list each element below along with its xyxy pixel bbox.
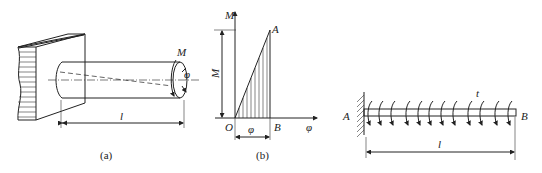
shaft-beam xyxy=(364,109,516,116)
x-axis-label: φ xyxy=(306,121,312,133)
caption-b: (b) xyxy=(256,149,269,162)
fixed-wall-block xyxy=(18,34,85,120)
length-label: l xyxy=(120,110,123,122)
distributed-torque-arrows xyxy=(368,101,512,125)
figure-b-torque-angle-graph: M φ O A B M xyxy=(209,9,317,162)
circular-shaft xyxy=(48,62,200,98)
angle-dim-label: φ xyxy=(248,123,254,135)
work-triangle: A B xyxy=(235,23,281,133)
point-b-label: B xyxy=(274,121,281,133)
beam-length-label: l xyxy=(438,138,441,150)
end-b-label: B xyxy=(521,110,528,122)
moment-dim-label: M xyxy=(209,68,221,79)
beam-length-dimension: l xyxy=(366,117,515,160)
caption-a: (a) xyxy=(100,149,113,162)
figure-c-distributed-torque-beam: A B t l xyxy=(342,87,528,160)
twist-angle-label: φ xyxy=(184,68,190,80)
point-a-label: A xyxy=(271,23,279,35)
angle-dimension: φ xyxy=(235,118,270,140)
torque-intensity-label: t xyxy=(476,87,480,99)
fixed-support-hatch xyxy=(357,92,364,137)
figure-a-shaft-diagram: M φ l (a) xyxy=(18,34,200,162)
length-dimension: l xyxy=(61,100,184,128)
moment-label: M xyxy=(176,46,187,58)
moment-dimension: M xyxy=(209,30,236,117)
end-a-label: A xyxy=(342,110,350,122)
origin-label: O xyxy=(225,121,233,133)
y-axis-label: M xyxy=(224,9,235,21)
figure-canvas: M φ l (a) M φ O xyxy=(0,0,542,173)
